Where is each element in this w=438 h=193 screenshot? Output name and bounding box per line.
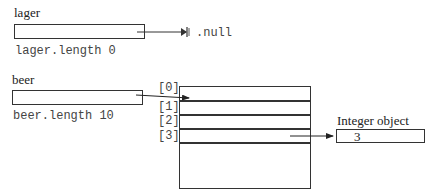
beer-array-arrow [136,95,189,98]
lager-null-arrow [137,27,189,37]
reference-arrows [0,0,438,193]
